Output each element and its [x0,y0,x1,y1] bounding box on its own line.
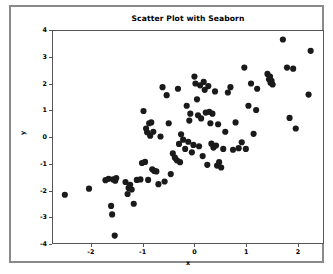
scatter-canvas [53,31,323,243]
scatter-point [293,125,299,131]
y-tick-label: 1 [31,106,47,114]
scatter-point [112,233,118,239]
y-tick-label: 2 [31,80,47,88]
x-axis-label: x [52,259,324,267]
scatter-point [306,92,312,98]
scatter-point [113,175,119,181]
page-title: Scatter Plot with Seaborn [52,14,324,23]
y-tick-mark [49,57,52,58]
scatter-point [187,111,193,117]
scatter-point [145,177,151,183]
scatter-point [236,145,242,151]
y-tick-mark [49,84,52,85]
scatter-point [254,86,260,92]
scatter-point [239,139,245,145]
scatter-point [168,171,174,177]
scatter-point [225,89,231,95]
y-tick-mark [49,137,52,138]
y-tick-mark [49,244,52,245]
scatter-point [162,178,168,184]
y-tick-label: -1 [31,160,47,168]
figure-container: Scatter Plot with Seaborn -4-3-2-101234 … [0,0,333,274]
scatter-point [209,111,215,117]
scatter-point [140,108,146,114]
scatter-point [270,81,276,87]
scatter-point [230,147,236,153]
scatter-point [218,164,224,170]
scatter-point [220,146,226,152]
scatter-point [186,117,192,123]
scatter-point [129,186,135,192]
scatter-point [164,92,170,98]
y-tick-mark [49,191,52,192]
scatter-point [137,176,143,182]
scatter-point [200,153,206,159]
scatter-point [253,107,259,113]
figure-frame: Scatter Plot with Seaborn -4-3-2-101234 … [9,5,324,263]
scatter-point [222,129,228,135]
scatter-point [213,142,219,148]
scatter-point [250,131,256,137]
scatter-point [245,103,251,109]
scatter-point [248,80,254,86]
scatter-point [175,86,181,92]
x-tick-label: 0 [192,248,196,256]
scatter-point [216,159,222,165]
scatter-point [198,115,204,121]
scatter-point [178,131,184,137]
scatter-point [148,119,154,125]
scatter-point [212,88,218,94]
scatter-point [284,64,290,70]
y-tick-mark [49,110,52,111]
x-tick-label: -1 [139,248,146,256]
scatter-point [150,129,156,135]
y-tick-label: -4 [31,240,47,248]
y-tick-mark [49,217,52,218]
x-tick-mark [246,244,247,247]
scatter-point [159,84,165,90]
scatter-point [185,139,191,145]
x-tick-label: -2 [87,248,94,256]
scatter-point [194,96,200,102]
scatter-point [109,211,115,217]
scatter-point [190,142,196,148]
scatter-point [142,159,148,165]
scatter-point [280,36,286,42]
scatter-point [232,119,238,125]
scatter-point [191,74,197,80]
scatter-point [243,146,249,152]
scatter-point [184,103,190,109]
y-axis-label: y [19,131,27,135]
scatter-point [215,121,221,127]
scatter-point [189,149,195,155]
x-tick-mark [298,244,299,247]
scatter-point [108,203,114,209]
y-tick-label: -3 [31,213,47,221]
y-tick-label: -2 [31,187,47,195]
x-tick-mark [91,244,92,247]
scatter-point [86,186,92,192]
scatter-point [166,120,172,126]
scatter-point [205,83,211,89]
scatter-point [241,64,247,70]
y-tick-label: 3 [31,53,47,61]
x-tick-label: 1 [244,248,248,256]
scatter-point [207,120,213,126]
scatter-point [196,143,202,149]
y-tick-mark [49,164,52,165]
plot-axes-area [52,30,324,244]
y-tick-label: 0 [31,133,47,141]
scatter-point [155,181,161,187]
scatter-point [177,159,183,165]
scatter-point [131,201,137,207]
scatter-point [157,133,163,139]
scatter-point [204,162,210,168]
scatter-point [62,192,68,198]
scatter-point [286,115,292,121]
scatter-point [153,168,159,174]
scatter-point [182,146,188,152]
scatter-point [290,66,296,72]
scatter-point [201,79,207,85]
x-tick-mark [194,244,195,247]
y-tick-label: 4 [31,26,47,34]
